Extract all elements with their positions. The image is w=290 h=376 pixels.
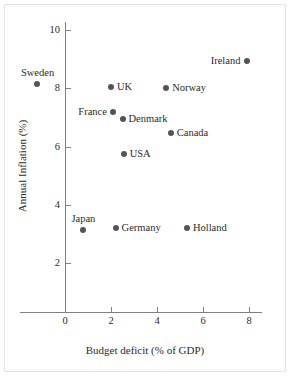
data-point [163, 85, 169, 91]
data-point-label: France [78, 107, 107, 118]
x-tick-label: 0 [55, 316, 75, 327]
x-tick-mark [157, 307, 158, 312]
plot-area: 246810 02468 SwedenIrelandUKNorwayFrance… [0, 0, 290, 376]
y-tick-label: 6 [38, 142, 60, 153]
data-point [184, 225, 190, 231]
data-point-label: Denmark [129, 114, 168, 125]
y-tick-label: 2 [38, 258, 60, 269]
data-point-label: USA [130, 149, 151, 160]
x-tick-label: 4 [147, 316, 167, 327]
y-tick-mark [66, 263, 71, 264]
data-point-label: Sweden [21, 68, 54, 79]
data-point-label: Japan [71, 214, 95, 225]
y-tick-label: 10 [38, 25, 60, 36]
data-point [121, 151, 127, 157]
data-point [80, 227, 86, 233]
x-tick-mark [249, 307, 250, 312]
y-tick-label: 8 [38, 83, 60, 94]
x-tick-mark [65, 307, 66, 312]
data-point-label: Canada [177, 128, 209, 139]
y-axis-line [65, 22, 66, 313]
y-tick-mark [66, 30, 71, 31]
data-point [120, 116, 126, 122]
data-point [110, 109, 116, 115]
data-point [244, 58, 250, 64]
x-tick-mark [203, 307, 204, 312]
y-tick-label: 4 [38, 200, 60, 211]
data-point [168, 130, 174, 136]
y-tick-mark [66, 205, 71, 206]
x-tick-label: 8 [239, 316, 259, 327]
data-point-label: Germany [122, 223, 161, 234]
y-tick-mark [66, 88, 71, 89]
data-point-label: Ireland [211, 56, 241, 67]
x-tick-label: 6 [193, 316, 213, 327]
data-point [113, 225, 119, 231]
data-point-label: UK [117, 82, 132, 93]
data-point-label: Holland [193, 223, 227, 234]
x-tick-mark [111, 307, 112, 312]
data-point [108, 84, 114, 90]
data-point-label: Norway [172, 83, 206, 94]
scatter-plot-figure: 246810 02468 SwedenIrelandUKNorwayFrance… [0, 0, 290, 376]
y-tick-mark [66, 147, 71, 148]
y-axis-title: Annual Inflation (%) [16, 86, 28, 246]
x-axis-line [20, 312, 262, 313]
x-tick-label: 2 [101, 316, 121, 327]
x-axis-title: Budget deficit (% of GDP) [0, 344, 290, 356]
